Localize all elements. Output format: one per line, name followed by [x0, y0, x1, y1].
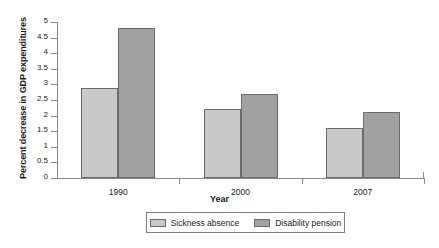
y-axis-tick: 0 — [51, 178, 57, 179]
x-axis-line — [57, 178, 424, 179]
y-axis-line — [57, 22, 58, 179]
y-axis-tick: 4.5 — [51, 38, 57, 39]
bar-chart-figure: Percent decrease in GDP expenditures 54.… — [0, 0, 439, 248]
plot-area: 54.543.532.521.510.50 199020002007 — [57, 22, 424, 178]
x-axis-separator-tick — [302, 178, 303, 184]
y-axis-tick: 3.5 — [51, 69, 57, 70]
y-axis-tick: 1 — [51, 147, 57, 148]
y-axis-tick-label: 2 — [44, 110, 48, 119]
y-axis-tick: 5 — [51, 22, 57, 23]
y-axis-tick: 0.5 — [51, 162, 57, 163]
legend-swatch — [150, 219, 166, 227]
y-axis-title: Percent decrease in GDP expenditures — [18, 8, 28, 188]
legend-label: Disability pension — [275, 218, 341, 228]
y-axis-tick-label: 1 — [44, 141, 48, 150]
legend-swatch — [254, 219, 270, 227]
bar-2000-disability-pension — [241, 94, 278, 178]
y-axis-tick: 1.5 — [51, 131, 57, 132]
legend-label: Sickness absence — [171, 218, 240, 228]
x-axis-separator-tick — [424, 178, 425, 184]
bar-2000-sickness-absence — [204, 109, 241, 178]
y-axis-tick-label: 2.5 — [37, 94, 48, 103]
y-axis-tick-label: 5 — [44, 16, 48, 25]
y-axis-tick-label: 1.5 — [37, 125, 48, 134]
y-axis-tick-label: 4 — [44, 47, 48, 56]
legend-item-sickness-absence: Sickness absence — [150, 218, 240, 228]
y-axis-tick: 3 — [51, 84, 57, 85]
y-axis-tick: 2 — [51, 116, 57, 117]
y-axis-tick-label: 0 — [44, 172, 48, 181]
legend: Sickness absenceDisability pension — [146, 212, 345, 233]
legend-item-disability-pension: Disability pension — [254, 218, 341, 228]
bar-1990-sickness-absence — [81, 88, 118, 178]
x-axis-separator-tick — [179, 178, 180, 184]
y-axis-tick: 4 — [51, 53, 57, 54]
y-axis-tick-label: 0.5 — [37, 156, 48, 165]
bar-1990-disability-pension — [118, 28, 155, 178]
y-axis-tick-label: 3.5 — [37, 63, 48, 72]
y-axis-tick-label: 4.5 — [37, 32, 48, 41]
y-axis-tick: 2.5 — [51, 100, 57, 101]
bar-2007-sickness-absence — [326, 128, 363, 178]
x-axis-title: Year — [0, 194, 439, 204]
y-axis-tick-label: 3 — [44, 78, 48, 87]
bar-2007-disability-pension — [363, 112, 400, 178]
